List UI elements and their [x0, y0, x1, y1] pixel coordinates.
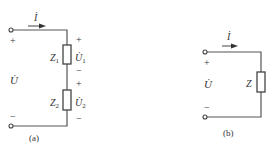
source-voltage-a: U̇ [10, 74, 19, 86]
caption-b: (b) [223, 128, 234, 138]
terminal-top-a [9, 28, 13, 32]
minus-sign-source-a: − [10, 111, 16, 122]
u1-label: U̇1 [75, 52, 86, 65]
terminal-top-b [203, 50, 207, 54]
current-label-a: İ [33, 12, 38, 23]
z1-label: Z1 [50, 52, 60, 65]
caption-a: (a) [29, 133, 39, 143]
impedance-z1 [63, 45, 71, 64]
z-label: Z [246, 78, 252, 89]
u2-label: U̇2 [75, 97, 86, 110]
terminal-bottom-a [9, 124, 13, 128]
top-wire-b [205, 52, 261, 72]
current-label-b: İ [226, 31, 231, 42]
circuit-diagram: İ + U̇ − Z1 + U̇1 − + Z2 U̇2 − (a) [0, 0, 274, 150]
z2-label: Z2 [50, 97, 60, 110]
u2-minus-sign: − [76, 113, 82, 124]
bottom-wire-b [205, 92, 261, 117]
impedance-z2 [63, 90, 71, 110]
top-wire-a [12, 30, 67, 45]
u1-plus-sign: + [76, 34, 82, 45]
current-arrow-a [28, 24, 46, 29]
bottom-wire-a [12, 110, 67, 126]
source-voltage-b: U̇ [204, 78, 213, 90]
terminal-bottom-b [203, 115, 207, 119]
minus-sign-source-b: − [204, 102, 210, 113]
circuit-b: İ + U̇ − Z (b) [203, 31, 265, 138]
plus-sign-source-b: + [204, 57, 210, 68]
circuit-a: İ + U̇ − Z1 + U̇1 − + Z2 U̇2 − (a) [9, 12, 86, 143]
u1-minus-sign: − [76, 65, 82, 76]
plus-sign-source-a: + [10, 35, 16, 46]
impedance-z [257, 72, 265, 92]
current-arrow-b [222, 44, 238, 49]
u2-plus-sign: + [76, 78, 82, 89]
